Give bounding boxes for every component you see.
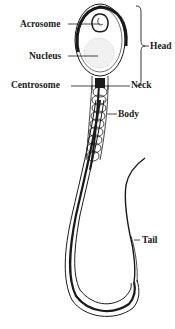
label-centrosome: Centrosome [11, 80, 60, 90]
label-body: Body [118, 109, 139, 119]
label-acrosome: Acrosome [20, 19, 60, 29]
label-head: Head [150, 41, 172, 51]
sperm-cell-drawing [0, 0, 175, 329]
acrosome-shape [92, 14, 108, 32]
sperm-cell-diagram: Acrosome Nucleus Head Centrosome Neck Bo… [0, 0, 175, 329]
label-tail: Tail [142, 235, 158, 245]
label-neck: Neck [131, 80, 152, 90]
tail-drawing [65, 100, 145, 316]
neck-drawing [92, 76, 108, 90]
label-nucleus: Nucleus [29, 51, 61, 61]
head-brace [136, 6, 145, 86]
nucleus-shape [84, 38, 114, 68]
head-drawing [75, 4, 126, 76]
